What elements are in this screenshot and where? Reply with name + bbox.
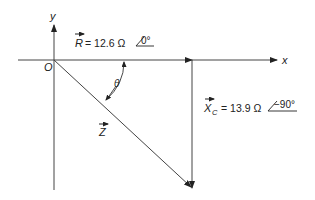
- vector-xc-subscript: C: [212, 108, 218, 117]
- vector-xc: X C = 13.9 Ω −90°: [192, 60, 297, 188]
- vector-z: Z: [54, 60, 191, 187]
- vector-xc-angle: −90°: [274, 99, 295, 110]
- x-axis-label: x: [281, 54, 288, 66]
- theta-label: θ: [114, 78, 120, 89]
- vector-xc-symbol: X: [203, 102, 212, 114]
- vector-r-angle: 0°: [141, 35, 151, 46]
- vector-r-value: = 12.6 Ω: [85, 37, 125, 49]
- angle-theta: θ: [106, 62, 124, 100]
- vector-z-symbol: Z: [98, 126, 107, 138]
- vector-r-symbol: R: [75, 37, 83, 49]
- origin-label: O: [44, 61, 53, 73]
- y-axis: y: [49, 10, 57, 190]
- phasor-diagram: y x O R = 12.6 Ω 0° X C = 13.9 Ω −90°: [0, 0, 315, 200]
- y-axis-label: y: [49, 10, 57, 22]
- vector-r: R = 12.6 Ω 0°: [54, 34, 192, 60]
- vector-xc-value: = 13.9 Ω: [221, 102, 261, 114]
